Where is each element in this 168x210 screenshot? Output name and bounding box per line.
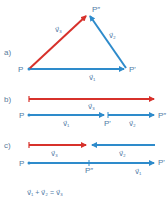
vector-v2-label: v⃗₂	[129, 120, 136, 127]
point-P-dot	[28, 114, 31, 117]
point-P-dot	[28, 162, 31, 165]
point-P-label: P	[18, 65, 23, 74]
vector-v1-label: v⃗₁	[135, 168, 142, 175]
point-P-label: P	[19, 111, 24, 120]
point-P2-label: P″	[85, 166, 93, 175]
part-a: a) P P' P″ v⃗₃ v⃗₂ v⃗₁	[4, 5, 136, 81]
vector-v1-label: v⃗₁	[63, 120, 70, 127]
vector-v2-label: v⃗₂	[109, 32, 116, 39]
vector-v1-label: v⃗₁	[89, 74, 96, 81]
point-P1-label: P'	[129, 65, 136, 74]
vector-v2-arrow	[90, 16, 126, 68]
part-a-label: a)	[4, 48, 11, 57]
vector-v3-arrow	[29, 16, 86, 69]
point-P1-label: P'	[104, 119, 111, 128]
part-b-label: b)	[4, 95, 11, 104]
part-c: c) v⃗₃ v⃗₂ P P″ P' v⃗₁	[4, 141, 165, 175]
vector-v2-label: v⃗₂	[119, 150, 126, 157]
equation: v⃗₁ + v⃗₂ = v⃗₃	[27, 189, 63, 196]
vector-v3-label: v⃗₃	[55, 26, 62, 33]
point-P-label: P	[19, 159, 24, 168]
point-P-dot	[28, 68, 31, 71]
vector-v3-label: v⃗₃	[88, 103, 95, 110]
vector-v3-label: v⃗₃	[51, 150, 58, 157]
vector-addition-diagram: a) P P' P″ v⃗₃ v⃗₂ v⃗₁ b) v⃗₃ P P' P″ v⃗…	[0, 0, 168, 210]
part-c-label: c)	[4, 141, 11, 150]
point-P1-label: P'	[158, 158, 165, 167]
part-b: b) v⃗₃ P P' P″ v⃗₁ v⃗₂	[4, 95, 166, 128]
point-P2-label: P″	[158, 111, 166, 120]
point-P2-label: P″	[92, 5, 100, 14]
